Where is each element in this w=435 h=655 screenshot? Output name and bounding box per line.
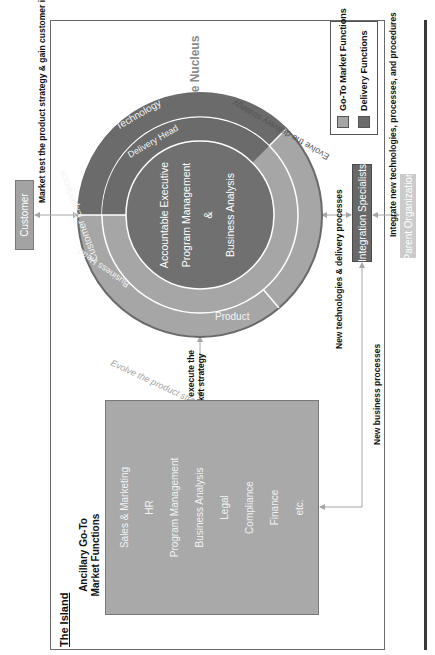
island-item: etc. xyxy=(294,499,305,515)
island-item: Legal xyxy=(219,495,230,519)
product-label: Product xyxy=(215,311,250,322)
parent-label: Parent Organization xyxy=(403,172,414,261)
integration-specialists-box: Integration Specialists xyxy=(352,164,372,262)
island-item: HR xyxy=(144,500,155,514)
island-item: Sales & Marketing xyxy=(119,467,130,548)
island-title: The Island xyxy=(58,593,70,647)
diagram-canvas: Customer Market test the product strateg… xyxy=(0,0,435,655)
core-line-1: Accountable Executive xyxy=(158,162,170,268)
parent-organization-box: Parent Organization xyxy=(400,174,416,258)
ancillary-functions-box: Sales & Marketing HR Program Management … xyxy=(105,400,319,615)
island-item: Program Management xyxy=(169,458,180,558)
core-line-4: Business Analysis xyxy=(224,173,236,257)
ancillary-title-line-2: Market Functions xyxy=(90,495,102,615)
ancillary-title-line-1: Ancillary Go-To xyxy=(78,495,90,615)
island-item: Business Analysis xyxy=(194,467,205,547)
core-line-2: Program Management xyxy=(180,163,192,268)
island-item: Compliance xyxy=(244,481,255,534)
new-business-label: New business processes xyxy=(372,344,382,445)
ancillary-title: Ancillary Go-To Market Functions xyxy=(78,495,102,615)
core-line-3: & xyxy=(202,211,214,218)
new-technologies-label: New technologies & delivery processes xyxy=(334,189,344,349)
island-item: Finance xyxy=(269,490,280,526)
integration-label: Integration Specialists xyxy=(357,164,368,262)
integrate-label: Integrate new technologies, processes, a… xyxy=(388,12,398,237)
